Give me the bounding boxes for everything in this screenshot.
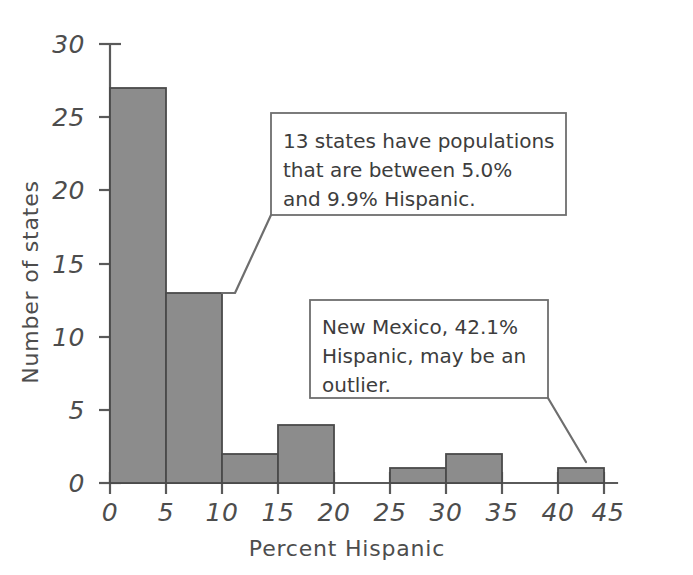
callout-leader-second <box>548 398 586 462</box>
x-tick-label-15: 15 <box>262 498 295 527</box>
callout-text-second: New Mexico, 42.1% Hispanic, may be an ou… <box>322 313 526 400</box>
callout-text-first: 13 states have populations that are betw… <box>283 127 555 214</box>
bar-5-10 <box>166 293 222 483</box>
plot-area <box>0 0 693 575</box>
callout-first-line-2: that are between 5.0% <box>283 156 555 185</box>
bar-25-30 <box>390 468 446 483</box>
y-tick-label-20: 20 <box>40 176 85 205</box>
bar-30-35 <box>446 454 502 483</box>
y-tick-label-30: 30 <box>40 30 85 59</box>
x-tick-label-35: 35 <box>486 498 519 527</box>
y-tick-label-15: 15 <box>40 250 85 279</box>
x-tick-label-30: 30 <box>430 498 463 527</box>
callout-second-line-2: Hispanic, may be an <box>322 342 526 371</box>
callout-second-line-3: outlier. <box>322 371 526 400</box>
x-tick-label-5: 5 <box>158 498 174 527</box>
y-tick-label-0: 0 <box>40 469 85 498</box>
bar-15-20 <box>278 425 334 483</box>
x-tick-label-10: 10 <box>206 498 239 527</box>
bar-10-15 <box>222 454 278 483</box>
x-tick-label-45: 45 <box>592 498 625 527</box>
callout-first-line-1: 13 states have populations <box>283 127 555 156</box>
y-tick-label-25: 25 <box>40 103 85 132</box>
bar-0-5 <box>110 88 166 483</box>
callout-second-line-1: New Mexico, 42.1% <box>322 313 526 342</box>
x-tick-label-20: 20 <box>318 498 351 527</box>
x-tick-label-0: 0 <box>102 498 118 527</box>
x-axis-title: Percent Hispanic <box>249 536 445 561</box>
x-tick-label-40: 40 <box>542 498 575 527</box>
callout-first-line-3: and 9.9% Hispanic. <box>283 185 555 214</box>
y-tick-label-5: 5 <box>40 396 85 425</box>
callout-leader-first <box>222 215 271 293</box>
y-tick-label-10: 10 <box>40 323 85 352</box>
bar-40-45 <box>558 468 604 483</box>
x-tick-label-25: 25 <box>374 498 407 527</box>
y-axis-title: Number of states <box>18 180 43 384</box>
histogram-chart: 30 25 20 15 10 5 0 0 5 10 15 20 25 30 35… <box>0 0 693 575</box>
